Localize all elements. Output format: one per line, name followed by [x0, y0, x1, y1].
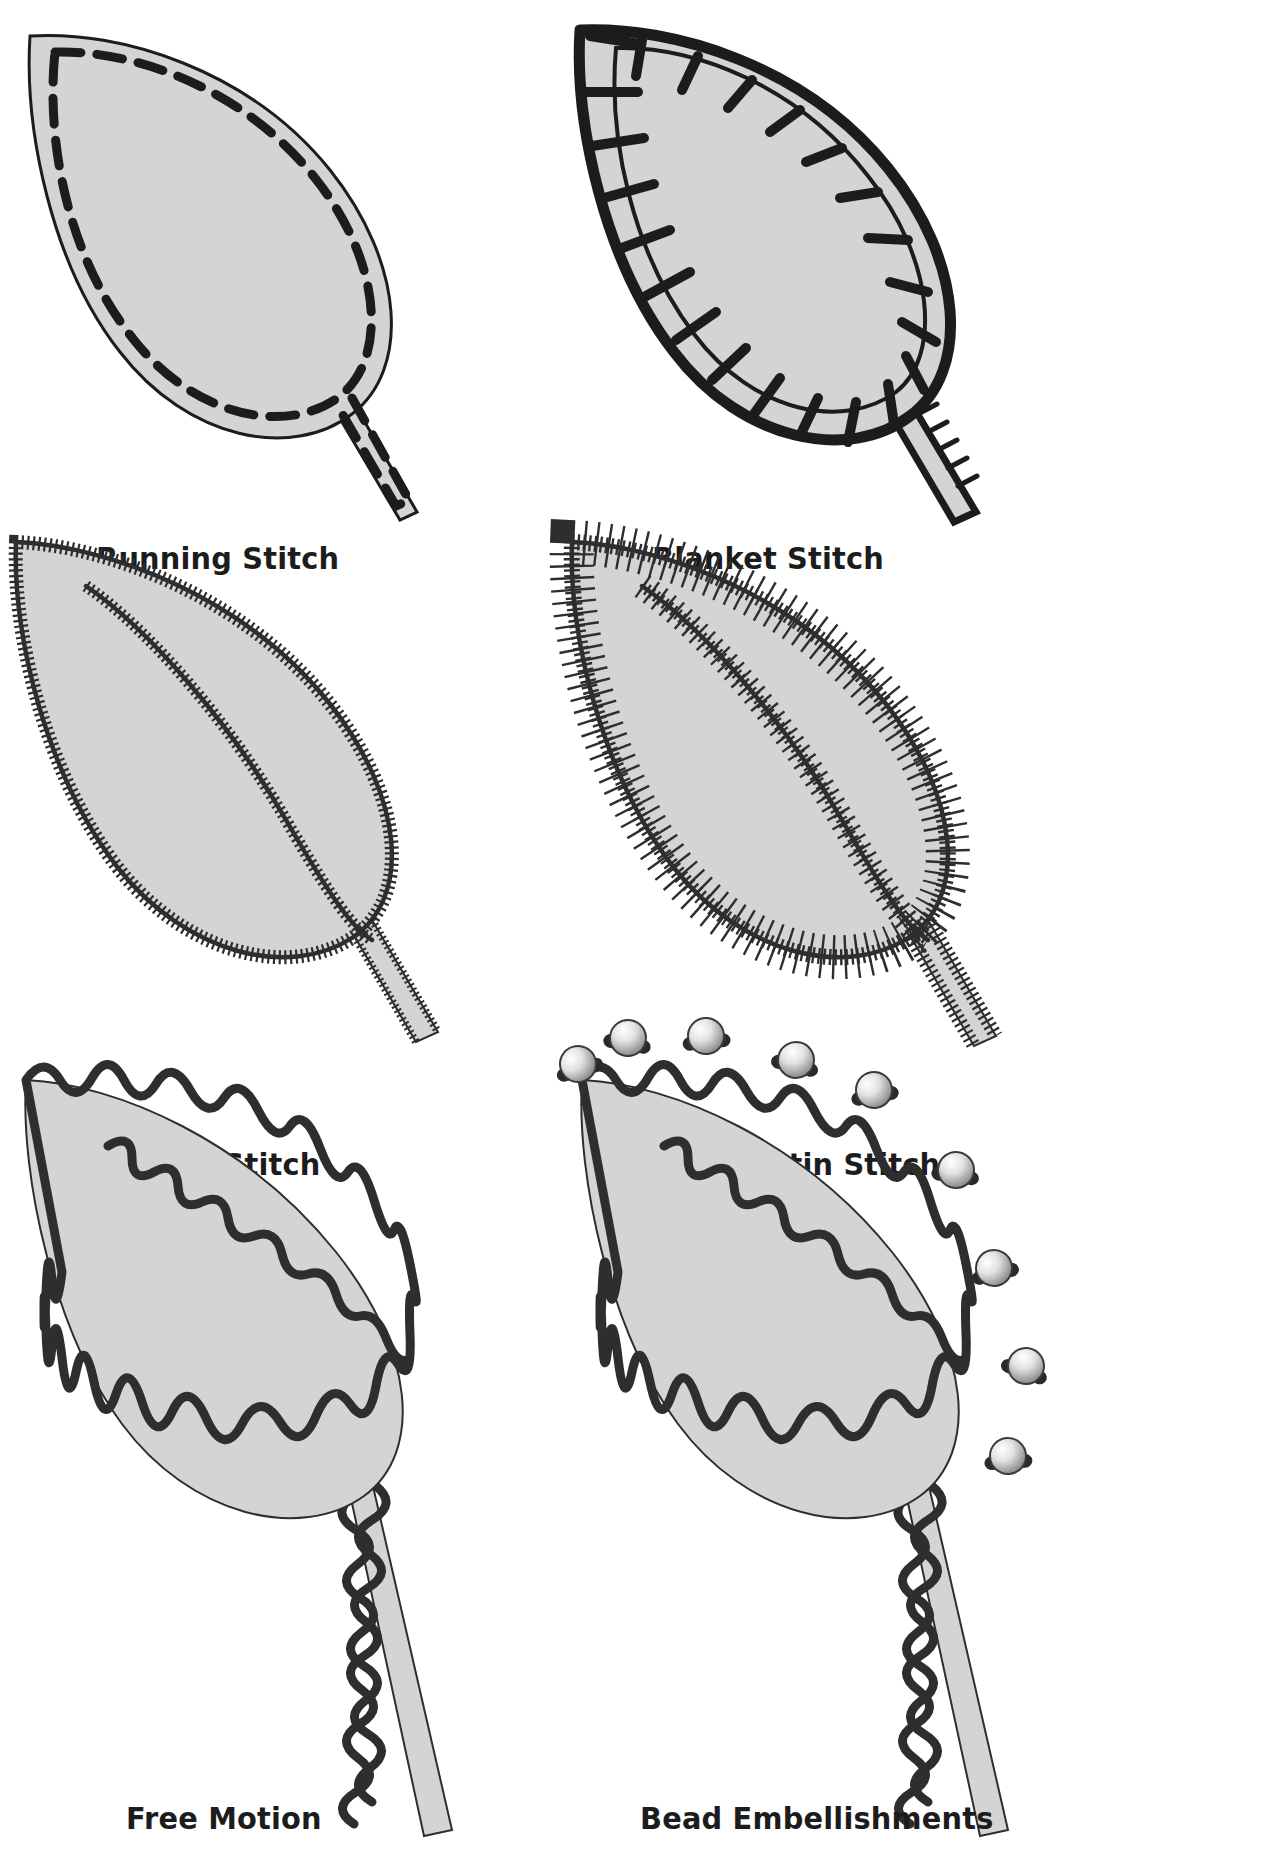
satin-stitch-illustration: [0, 520, 520, 1080]
caption-bead-embellishments: Bead Embellishments: [640, 1800, 994, 1836]
bead: [930, 1149, 983, 1191]
leaf-stem: [352, 920, 438, 1042]
leaf-body: [29, 35, 391, 438]
panel-bead-embellishments: [556, 1020, 1116, 1876]
bead: [983, 1436, 1033, 1475]
varied-satin-illustration: [556, 520, 1076, 1080]
sampler-sheet: Running Stitch: [0, 0, 1276, 1876]
bead: [847, 1068, 901, 1112]
bead: [768, 1037, 823, 1084]
leaf-body: [581, 1080, 958, 1518]
blanket-stitch-illustration: [556, 0, 1076, 540]
bead: [997, 1341, 1054, 1391]
caption-free-motion: Free Motion: [126, 1800, 322, 1836]
panel-free-motion: [0, 1050, 520, 1876]
free-motion-illustration: [0, 1050, 520, 1876]
leaf-body: [25, 1080, 402, 1518]
bead-embellishments-illustration: [556, 1020, 1116, 1876]
bead: [966, 1245, 1021, 1292]
panel-varied-satin-stitch: [556, 520, 1076, 1080]
panel-blanket-stitch: [556, 0, 1076, 540]
running-stitch-illustration: [0, 0, 520, 540]
leaf-stem: [342, 1482, 452, 1836]
panel-running-stitch: [0, 0, 520, 540]
bead: [680, 1016, 732, 1057]
leaf-stem: [898, 1482, 1008, 1836]
panel-satin-stitch: [0, 520, 520, 1080]
bead: [601, 1016, 655, 1060]
